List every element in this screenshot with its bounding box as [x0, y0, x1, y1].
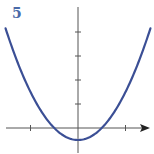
parabola-chart — [0, 0, 154, 154]
panel-label: 5 — [12, 5, 22, 21]
